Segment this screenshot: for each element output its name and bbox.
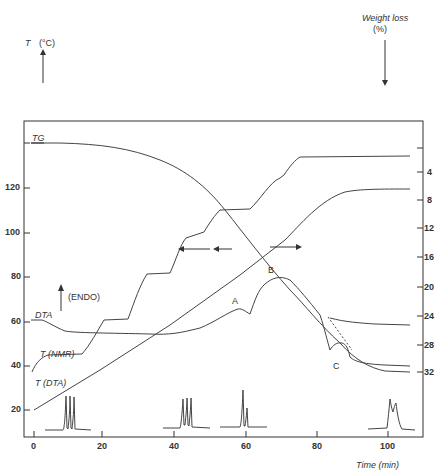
nmr-spectrum-60min — [220, 390, 267, 427]
thermal-analysis-chart: T (°C) Weight loss (%) 120 100 80 60 40 … — [0, 0, 445, 471]
endo-label: (ENDO) — [68, 292, 100, 302]
endo-indicator: (ENDO) — [58, 284, 100, 311]
tg-label: TG — [32, 133, 45, 143]
right-tick-20: 20 — [424, 282, 434, 292]
left-tick-40: 40 — [11, 360, 21, 370]
arrowhead-down-icon — [382, 80, 388, 86]
peak-a-label: A — [232, 296, 238, 306]
bottom-tick-20: 20 — [97, 441, 107, 451]
right-tick-16: 16 — [424, 252, 434, 262]
weight-loss-axis-header: Weight loss (%) — [362, 13, 409, 86]
dta-label: DTA — [35, 310, 52, 320]
weight-loss-unit: (%) — [373, 24, 387, 34]
left-tick-120: 120 — [5, 182, 20, 192]
right-tick-32: 32 — [424, 367, 434, 377]
nmr-spectrum-10min — [45, 396, 91, 430]
left-tick-80: 80 — [11, 271, 21, 281]
nmr-spectrum-43min — [163, 398, 210, 428]
x-axis-label: Time (min) — [356, 460, 399, 470]
right-tick-24: 24 — [424, 311, 434, 321]
weight-loss-label: Weight loss — [362, 13, 409, 23]
nmr-spectrum-101min — [368, 399, 415, 430]
temperature-symbol: T — [25, 38, 32, 48]
left-tick-60: 60 — [11, 316, 21, 326]
t-nmr-curve — [32, 156, 410, 372]
bottom-tick-0: 0 — [31, 441, 36, 451]
arrowhead-up-icon — [40, 49, 46, 55]
right-tick-4: 4 — [427, 167, 432, 177]
left-axis: 120 100 80 60 40 20 — [5, 143, 30, 414]
peak-b-label: B — [268, 265, 274, 275]
dta-upper-branch — [330, 318, 410, 325]
bottom-tick-80: 80 — [312, 441, 322, 451]
bottom-tick-40: 40 — [169, 441, 179, 451]
right-axis: 4 8 12 16 20 24 28 32 — [417, 148, 434, 377]
left-tick-20: 20 — [11, 404, 21, 414]
peak-c-label: C — [333, 361, 340, 371]
transition-arrows — [178, 244, 302, 252]
bottom-tick-100: 100 — [380, 441, 395, 451]
t-dta-label: T (DTA) — [35, 378, 66, 388]
tg-curve — [31, 143, 410, 372]
right-tick-12: 12 — [424, 223, 434, 233]
left-tick-100: 100 — [5, 227, 20, 237]
plot-frame — [24, 121, 423, 437]
nmr-spectra — [45, 390, 415, 430]
t-nmr-label: T (NMR) — [40, 349, 75, 359]
temperature-axis-header: T (°C) — [25, 38, 55, 83]
temperature-unit: (°C) — [39, 38, 55, 48]
right-tick-28: 28 — [424, 340, 434, 350]
right-tick-8: 8 — [427, 195, 432, 205]
bottom-tick-60: 60 — [241, 441, 251, 451]
